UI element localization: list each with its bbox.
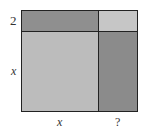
label-top-height: 2 [10, 15, 17, 27]
region-top-right [99, 11, 137, 32]
horizontal-divider [22, 31, 137, 32]
region-bottom-right [99, 32, 137, 111]
label-left-side: x [11, 65, 16, 77]
region-top-left [22, 11, 99, 32]
vertical-divider [98, 11, 99, 111]
area-model-rectangle [21, 10, 138, 112]
label-bottom-left-width: x [57, 116, 62, 128]
region-bottom-left [22, 32, 99, 111]
label-bottom-right-width: ? [115, 116, 120, 128]
